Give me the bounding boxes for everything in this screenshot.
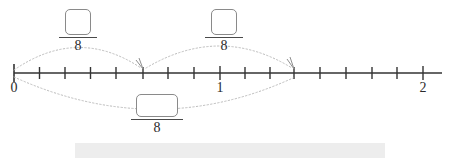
denominator-second-jump: 8 <box>221 39 228 53</box>
numerator-input-total-jump[interactable] <box>136 94 178 117</box>
denominator-total-jump: 8 <box>154 121 161 135</box>
fraction-total-jump: 8 <box>131 94 183 135</box>
numerator-input-first-jump[interactable] <box>65 9 91 35</box>
fraction-second-jump: 8 <box>205 9 243 53</box>
bottom-strip <box>75 143 385 158</box>
tick-label-0: 0 <box>4 80 24 96</box>
denominator-first-jump: 8 <box>75 39 82 53</box>
number-line-figure: 0 1 2 8 8 8 <box>0 0 450 158</box>
tick-label-1: 1 <box>210 80 230 96</box>
fraction-first-jump: 8 <box>59 9 97 53</box>
numerator-input-second-jump[interactable] <box>211 9 237 35</box>
tick-label-2: 2 <box>413 80 433 96</box>
